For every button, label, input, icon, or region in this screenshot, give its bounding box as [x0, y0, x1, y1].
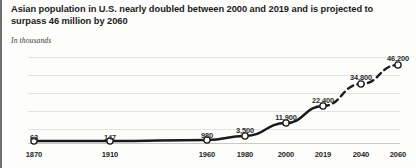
series-group [0, 0, 416, 168]
x-axis-tick-label: 2000 [278, 150, 295, 159]
data-point-value-label: 3,500 [236, 126, 254, 135]
chart-figure: Asian population in U.S. nearly doubled … [0, 0, 416, 168]
x-axis-tick-label: 1980 [237, 150, 254, 159]
data-point-value-label: 147 [104, 133, 116, 142]
data-point-value-label: 34,800 [350, 73, 372, 82]
x-axis-tick-label: 2060 [390, 150, 407, 159]
series-line-actual [34, 106, 323, 141]
x-axis-tick-label: 1910 [102, 150, 119, 159]
x-axis-tick-label: 1960 [199, 150, 216, 159]
data-point-value-label: 63 [30, 133, 38, 142]
x-axis-tick-label: 2019 [315, 150, 332, 159]
plot-area: 631479803,50011,90022,40034,80046,200187… [0, 0, 416, 168]
data-point-value-label: 11,900 [275, 113, 297, 122]
x-axis-tick-label: 1870 [26, 150, 43, 159]
x-axis-tick-label: 2040 [353, 150, 370, 159]
data-point-value-label: 46,200 [387, 54, 409, 63]
data-point-value-label: 22,400 [312, 96, 334, 105]
data-point-value-label: 980 [201, 131, 213, 140]
